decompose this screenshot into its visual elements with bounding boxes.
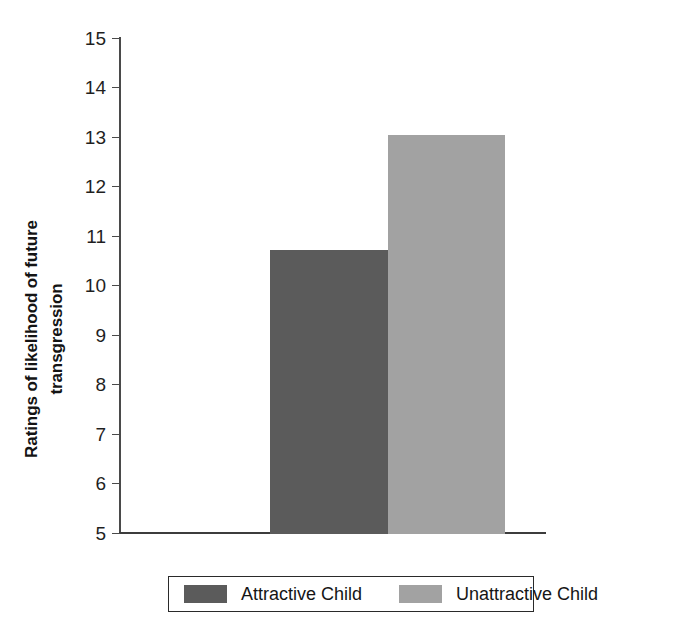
legend-entry-unattractive-child: Unattractive Child bbox=[399, 577, 598, 611]
bar-chart-figure: Ratings of likelihood of future transgre… bbox=[0, 0, 697, 644]
bar-attractive-child bbox=[270, 250, 388, 534]
plot-area bbox=[119, 38, 546, 534]
bar-unattractive-child bbox=[388, 135, 505, 534]
y-tick-label-11: 11 bbox=[72, 227, 106, 246]
y-tick-label-5: 5 bbox=[72, 524, 106, 543]
legend-swatch-unattractive-child bbox=[399, 585, 442, 603]
y-tick-label-6: 6 bbox=[72, 474, 106, 493]
y-tick-label-13: 13 bbox=[72, 128, 106, 147]
legend-label-unattractive-child: Unattractive Child bbox=[456, 585, 598, 603]
chart-legend: Attractive Child Unattractive Child bbox=[168, 576, 534, 612]
y-tick-label-7: 7 bbox=[72, 425, 106, 444]
y-tick-label-8: 8 bbox=[72, 375, 106, 394]
y-tick-label-14: 14 bbox=[72, 78, 106, 97]
legend-swatch-attractive-child bbox=[184, 585, 227, 603]
y-tick-label-15: 15 bbox=[72, 29, 106, 48]
legend-label-attractive-child: Attractive Child bbox=[241, 585, 362, 603]
y-tick-label-10: 10 bbox=[72, 276, 106, 295]
y-tick-label-12: 12 bbox=[72, 177, 106, 196]
legend-entry-attractive-child: Attractive Child bbox=[184, 577, 362, 611]
y-axis-title-line-1: Ratings of likelihood of future bbox=[19, 220, 44, 458]
y-tick-label-9: 9 bbox=[72, 326, 106, 345]
